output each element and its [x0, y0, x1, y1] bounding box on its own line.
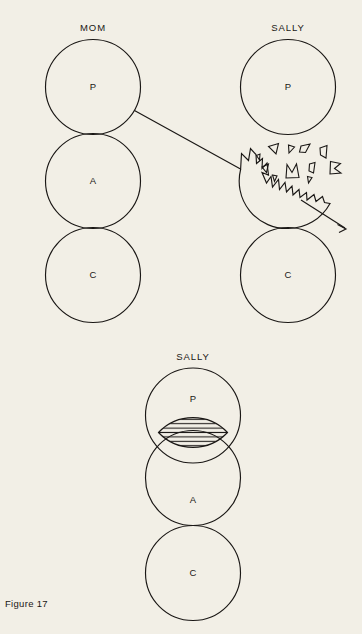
shard-8 [330, 162, 341, 175]
sally2-parent-letter: P [190, 393, 197, 404]
person-group-mom: MOM P A C [46, 22, 141, 323]
figure-caption: Figure 17 [5, 598, 48, 609]
person-label-sally-top: SALLY [271, 22, 304, 33]
mom-adult-letter: A [90, 175, 97, 186]
explosion-fragments [257, 144, 342, 184]
shard-2 [289, 145, 295, 153]
diagram-top-transaction: MOM P A C SALLY P A [46, 22, 347, 323]
shard-4 [320, 146, 327, 159]
mom-parent-letter: P [90, 81, 97, 92]
shard-6 [286, 164, 299, 178]
sally-adult-shattered-circle[interactable] [239, 149, 330, 229]
sally-child-letter: C [284, 269, 291, 280]
explosion-arrow [301, 200, 346, 233]
diagram-bottom-contamination: SALLY P A C [140, 351, 250, 621]
figure-page: MOM P A C SALLY P A [0, 0, 362, 634]
sally2-child-letter: C [189, 567, 196, 578]
shard-11 [257, 154, 261, 160]
transaction-line-mom-parent-to-sally-adult[interactable] [135, 111, 241, 170]
sally2-adult-letter: A [190, 494, 197, 505]
figure-canvas: MOM P A C SALLY P A [0, 0, 362, 634]
shard-3 [300, 144, 311, 153]
person-label-sally-bottom: SALLY [176, 351, 209, 362]
shard-7 [309, 163, 315, 174]
shard-10 [308, 177, 313, 184]
shard-9 [273, 175, 278, 182]
shard-1 [269, 144, 279, 155]
person-group-sally-top: SALLY P A C [239, 22, 335, 323]
mom-child-letter: C [89, 269, 96, 280]
sally-parent-letter: P [285, 81, 292, 92]
person-label-mom: MOM [80, 22, 106, 33]
sally2-parent-circle[interactable] [146, 368, 241, 463]
